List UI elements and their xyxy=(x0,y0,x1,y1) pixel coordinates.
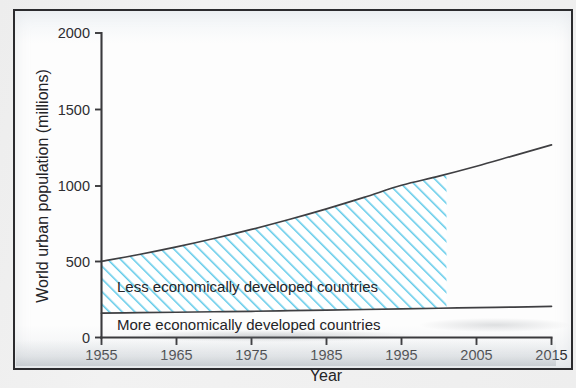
scanned-page: 2000 1500 1000 500 0 1955 1965 1975 1985… xyxy=(0,0,576,388)
band-label-more-developed: More economically developed countries xyxy=(117,316,380,333)
y-tick-label-1000: 1000 xyxy=(58,178,90,194)
x-tick-label-1985: 1985 xyxy=(310,347,342,363)
y-tick-label-0: 0 xyxy=(82,330,90,346)
y-axis-title: World urban population (millions) xyxy=(34,69,51,303)
band-label-less-developed: Less economically developed countries xyxy=(117,278,378,295)
y-tick-label-2000: 2000 xyxy=(58,25,90,41)
x-tick-label-1965: 1965 xyxy=(160,347,192,363)
x-tick-label-2015: 2015 xyxy=(535,347,567,363)
population-area-chart: 2000 1500 1000 500 0 1955 1965 1975 1985… xyxy=(0,0,576,388)
x-tick-label-2005: 2005 xyxy=(460,347,492,363)
chart-plot-area: 2000 1500 1000 500 0 1955 1965 1975 1985… xyxy=(0,0,576,388)
y-tick-label-1500: 1500 xyxy=(58,102,90,118)
x-tick-label-1995: 1995 xyxy=(385,347,417,363)
x-tick-label-1975: 1975 xyxy=(235,347,267,363)
x-tick-label-1955: 1955 xyxy=(85,347,117,363)
y-tick-label-500: 500 xyxy=(66,254,90,270)
x-axis-title: Year xyxy=(310,367,343,384)
